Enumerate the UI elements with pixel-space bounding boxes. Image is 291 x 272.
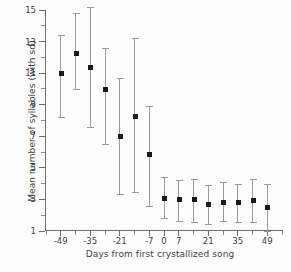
x-tick-label-21: 21 [193, 236, 223, 246]
x-minor-tick-28 [223, 231, 224, 235]
error-bar-cap-lower [132, 192, 139, 193]
data-marker [236, 200, 241, 205]
error-bar-cap-lower [220, 221, 227, 222]
y-axis-title: Mean number of syllables (with sd) [27, 21, 37, 221]
x-axis-title: Days from first crystallized song [34, 249, 286, 259]
y-minor-tick-8 [41, 120, 45, 121]
y-tick-label-13: 13 [20, 37, 36, 47]
data-marker [162, 196, 167, 201]
x-tick-label-7: 7 [164, 236, 194, 246]
y-tick-1 [39, 231, 45, 232]
y-minor-tick-4 [41, 183, 45, 184]
error-bar-cap-upper [176, 180, 183, 181]
y-tick-11 [39, 73, 45, 74]
error-bar-cap-lower [87, 127, 94, 128]
error-bar-cap-upper [87, 7, 94, 8]
error-bar-cap-upper [73, 13, 80, 14]
x-minor-tick--56 [46, 231, 47, 235]
y-minor-tick-14 [41, 25, 45, 26]
y-tick-9 [39, 104, 45, 105]
data-marker [118, 134, 123, 139]
data-marker [177, 197, 182, 202]
x-tick-label-35: 35 [223, 236, 253, 246]
error-bar-cap-upper [235, 184, 242, 185]
error-bar-cap-upper [58, 35, 65, 36]
x-tick-label-49: 49 [252, 236, 282, 246]
data-marker [265, 205, 270, 210]
error-bar-cap-lower [58, 117, 65, 118]
data-marker [221, 200, 226, 205]
error-bar-cap-upper [146, 106, 153, 107]
error-bar-line [60, 35, 61, 117]
x-minor-tick-42 [252, 231, 253, 235]
error-bar-cap-lower [117, 194, 124, 195]
error-bar-cap-upper [250, 179, 257, 180]
error-bar-cap-lower [264, 231, 271, 232]
data-marker [251, 198, 256, 203]
error-bar-cap-upper [132, 38, 139, 39]
error-bar-cap-lower [146, 206, 153, 207]
data-marker [103, 87, 108, 92]
error-bar-line [105, 48, 106, 144]
error-bar-cap-upper [161, 177, 168, 178]
error-bar-cap-lower [176, 221, 183, 222]
y-tick-label-3: 3 [20, 194, 36, 204]
error-bar-cap-upper [220, 182, 227, 183]
x-minor-tick--14 [134, 231, 135, 235]
error-bar-cap-lower [235, 222, 242, 223]
x-minor-tick-56 [282, 231, 283, 235]
y-tick-15 [39, 10, 45, 11]
y-minor-tick-10 [41, 88, 45, 89]
y-tick-label-11: 11 [20, 68, 36, 78]
data-marker [192, 197, 197, 202]
y-tick-label-15: 15 [20, 5, 36, 15]
y-tick-13 [39, 41, 45, 42]
data-marker [206, 202, 211, 207]
chart-figure: Mean number of syllables (with sd) 15131… [0, 0, 291, 272]
error-bar-cap-lower [191, 222, 198, 223]
error-bar-cap-upper [264, 184, 271, 185]
error-bar-cap-upper [205, 185, 212, 186]
y-tick-label-9: 9 [20, 100, 36, 110]
data-marker [88, 65, 93, 70]
y-minor-tick-6 [41, 152, 45, 153]
y-minor-tick-12 [41, 57, 45, 58]
data-marker [59, 71, 64, 76]
error-bar-cap-lower [250, 222, 257, 223]
data-marker [74, 51, 79, 56]
y-tick-label-1: 1 [20, 226, 36, 236]
x-tick-label--35: -35 [75, 236, 105, 246]
error-bar-cap-upper [102, 48, 109, 49]
y-tick-label-7: 7 [20, 131, 36, 141]
error-bar-cap-upper [191, 179, 198, 180]
data-marker [147, 152, 152, 157]
x-tick-label--49: -49 [46, 236, 76, 246]
y-tick-5 [39, 167, 45, 168]
error-bar-cap-lower [73, 89, 80, 90]
error-bar-cap-lower [205, 224, 212, 225]
y-tick-label-5: 5 [20, 163, 36, 173]
y-tick-7 [39, 136, 45, 137]
error-bar-cap-lower [161, 218, 168, 219]
x-minor-tick--42 [75, 231, 76, 235]
y-minor-tick-2 [41, 215, 45, 216]
x-minor-tick--28 [105, 231, 106, 235]
y-tick-3 [39, 199, 45, 200]
x-tick-label--21: -21 [105, 236, 135, 246]
error-bar-cap-lower [102, 144, 109, 145]
data-marker [133, 114, 138, 119]
x-minor-tick-14 [193, 231, 194, 235]
error-bar-cap-upper [117, 78, 124, 79]
